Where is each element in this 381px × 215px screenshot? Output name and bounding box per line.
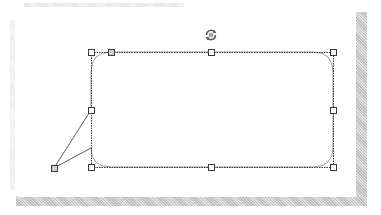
corner-radius-adjust-handle[interactable] [108,49,115,56]
callout-outline [54,52,333,168]
resize-handle-top-right[interactable] [330,49,337,56]
tail-line-lower [54,148,91,168]
tail-line-upper [54,110,91,168]
rotation-handle[interactable] [204,28,218,42]
resize-handle-bottom-center[interactable] [208,164,215,171]
resize-handle-top-center[interactable] [208,49,215,56]
resize-handle-middle-left[interactable] [88,107,95,114]
callout-shape[interactable] [0,0,381,215]
tail-tip-adjust-handle[interactable] [51,165,58,172]
drawing-canvas[interactable] [0,0,381,215]
rotate-icon [204,28,218,42]
selection-outline [92,53,334,168]
resize-handle-bottom-right[interactable] [330,164,337,171]
resize-handle-bottom-left[interactable] [88,164,95,171]
resize-handle-middle-right[interactable] [330,107,337,114]
resize-handle-top-left[interactable] [88,49,95,56]
